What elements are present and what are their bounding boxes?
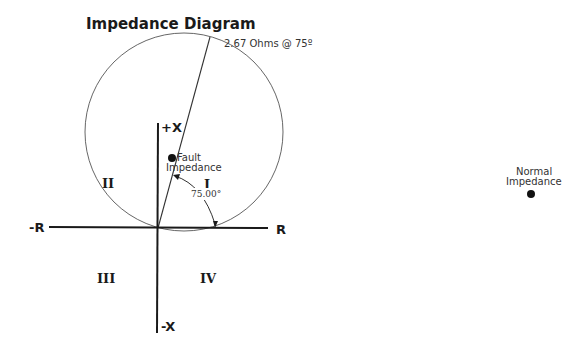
angle-label: 75.00°: [191, 189, 221, 199]
arc-arrow-top-icon: [173, 174, 180, 180]
quadrant-3: III: [97, 271, 115, 286]
diagram-title: Impedance Diagram: [86, 15, 256, 33]
quadrant-4: IV: [200, 271, 217, 286]
fault-impedance-dot: [168, 154, 176, 162]
neg-r-label: -R: [29, 220, 44, 235]
pos-x-label: +X: [161, 120, 182, 135]
circle-label: 2.67 Ohms @ 75º: [224, 38, 313, 49]
normal-impedance-dot: [527, 190, 535, 198]
quadrant-2: II: [102, 176, 114, 191]
x-axis: [157, 123, 158, 333]
impedance-diagram: Impedance Diagram 2.67 Ohms @ 75º +X -X …: [0, 0, 586, 355]
normal-label-line2: Impedance: [506, 176, 562, 187]
neg-x-label: -X: [161, 319, 175, 334]
fault-label-line2: Impedance: [166, 162, 222, 173]
pos-r-label: R: [276, 222, 286, 237]
